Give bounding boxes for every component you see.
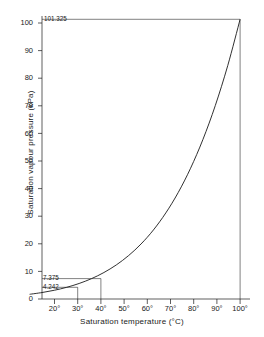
y-tick-marks bbox=[38, 23, 42, 299]
annotation-101325: 101.325 bbox=[44, 15, 67, 22]
x-tick-label-90: 90° bbox=[204, 305, 230, 313]
x-axis-title: Saturation temperature (°C) bbox=[0, 317, 264, 326]
x-tick-label-20: 20° bbox=[42, 305, 68, 313]
y-tick-label-10: 10 bbox=[11, 268, 33, 276]
x-tick-label-30: 30° bbox=[65, 305, 91, 313]
y-tick-label-0: 0 bbox=[11, 295, 33, 303]
saturation-curve bbox=[30, 19, 240, 294]
x-tick-label-80: 80° bbox=[181, 305, 207, 313]
plot-canvas bbox=[0, 0, 264, 337]
y-axis-title: Saturation vapour pressure (kPa) bbox=[26, 43, 35, 263]
x-tick-label-100: 100° bbox=[227, 305, 253, 313]
x-tick-label-70: 70° bbox=[158, 305, 184, 313]
x-tick-label-40: 40° bbox=[88, 305, 114, 313]
annotation-7375: 7.375 bbox=[43, 274, 59, 281]
annotation-leader-lines bbox=[42, 19, 240, 299]
y-tick-label-100: 100 bbox=[11, 19, 33, 27]
annotation-4242: 4.242 bbox=[43, 283, 59, 290]
x-tick-label-50: 50° bbox=[111, 305, 137, 313]
saturation-vapour-pressure-chart: 100 90 80 70 60 50 40 30 20 10 0 20° 30°… bbox=[0, 0, 264, 337]
x-tick-label-60: 60° bbox=[134, 305, 160, 313]
